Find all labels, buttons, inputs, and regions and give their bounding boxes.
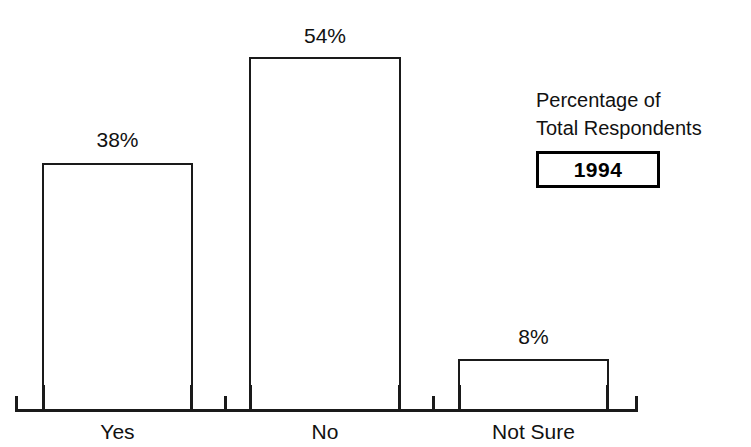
bar-yes: [42, 163, 193, 412]
legend-year-box: 1994: [536, 151, 660, 188]
bar-no: [249, 57, 401, 412]
bar-chart: 38% 54% 8% Yes No Not Sure Percentage of…: [0, 0, 751, 447]
axis-tick-bar1-right: [190, 385, 193, 410]
axis-tick-bar1-left: [42, 385, 45, 410]
axis-end-cap-right: [635, 396, 638, 410]
legend: Percentage of Total Respondents 1994: [536, 86, 746, 188]
legend-title-line-2: Total Respondents: [536, 114, 746, 142]
axis-tick-bar3-right: [606, 385, 609, 410]
legend-title-line-1: Percentage of: [536, 86, 746, 114]
plot-area: 38% 54% 8% Yes No Not Sure Percentage of…: [0, 0, 751, 447]
bar-value-label-not-sure: 8%: [458, 326, 609, 347]
axis-end-cap-left: [15, 396, 18, 410]
bar-not-sure: [458, 359, 609, 412]
x-axis-line: [15, 409, 638, 412]
x-axis-label-no: No: [249, 421, 401, 443]
x-axis-label-yes: Yes: [42, 421, 193, 443]
bar-value-label-no: 54%: [249, 25, 401, 46]
legend-year-label: 1994: [574, 159, 623, 180]
axis-tick-bar3-left: [458, 385, 461, 410]
axis-tick-gap2: [432, 396, 435, 410]
axis-tick-gap1: [224, 396, 227, 410]
x-axis-label-not-sure: Not Sure: [458, 421, 609, 443]
axis-tick-bar2-right: [398, 385, 401, 410]
axis-tick-bar2-left: [249, 385, 252, 410]
bar-value-label-yes: 38%: [42, 129, 193, 150]
